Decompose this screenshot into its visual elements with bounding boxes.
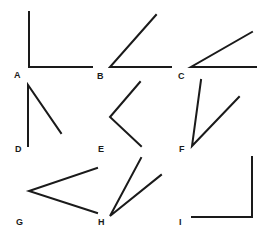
angle-i: I	[179, 157, 252, 227]
label-a: A	[14, 70, 21, 80]
angle-b: B	[97, 15, 171, 81]
label-e: E	[98, 144, 104, 154]
angle-diagram: A B C D E F G H I	[0, 0, 271, 240]
angle-a: A	[14, 12, 92, 80]
label-g: G	[16, 217, 23, 227]
angle-d: D	[15, 85, 61, 154]
label-b: B	[97, 71, 104, 81]
label-i: I	[179, 217, 182, 227]
angle-e: E	[98, 82, 141, 154]
label-h: H	[98, 217, 105, 227]
angle-g: G	[16, 168, 97, 227]
angle-h: H	[98, 158, 161, 227]
label-f: F	[179, 144, 185, 154]
angle-f: F	[179, 80, 239, 154]
label-c: C	[178, 71, 185, 81]
angle-c: C	[178, 32, 256, 81]
label-d: D	[15, 144, 22, 154]
